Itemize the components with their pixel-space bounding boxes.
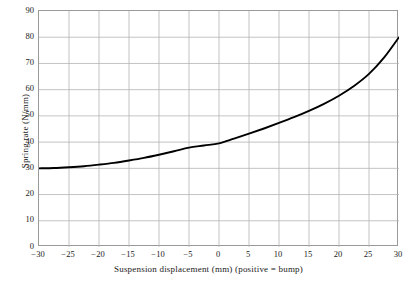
y-tick-label: 90 — [8, 6, 34, 15]
series-line — [39, 37, 399, 168]
y-tick-label: 10 — [8, 215, 34, 224]
y-tick-label: 60 — [8, 84, 34, 93]
plot-area — [38, 10, 398, 246]
x-tick-label: 5 — [233, 250, 263, 259]
x-tick-label: −20 — [83, 250, 113, 259]
x-tick-label: −5 — [173, 250, 203, 259]
x-axis-tick-labels: −30−25−20−15−10−5051015202530 — [0, 250, 417, 262]
y-tick-label: 50 — [8, 110, 34, 119]
x-tick-label: −15 — [113, 250, 143, 259]
y-axis-tick-labels: 0102030405060708090 — [4, 0, 34, 281]
spring-rate-curve — [39, 11, 399, 247]
x-tick-label: −30 — [23, 250, 53, 259]
y-tick-label: 70 — [8, 58, 34, 67]
y-tick-label: 20 — [8, 189, 34, 198]
spring-rate-chart-figure: Spring rate (N/mm) 0102030405060708090 −… — [0, 0, 417, 281]
x-axis-label: Suspension displacement (mm) (positive =… — [0, 264, 417, 274]
y-tick-label: 40 — [8, 137, 34, 146]
x-tick-label: −25 — [53, 250, 83, 259]
x-tick-label: 20 — [323, 250, 353, 259]
x-tick-label: 30 — [383, 250, 413, 259]
x-tick-label: −10 — [143, 250, 173, 259]
x-tick-label: 25 — [353, 250, 383, 259]
x-tick-label: 10 — [263, 250, 293, 259]
y-tick-label: 30 — [8, 163, 34, 172]
y-tick-label: 80 — [8, 32, 34, 41]
x-tick-label: 15 — [293, 250, 323, 259]
x-tick-label: 0 — [203, 250, 233, 259]
